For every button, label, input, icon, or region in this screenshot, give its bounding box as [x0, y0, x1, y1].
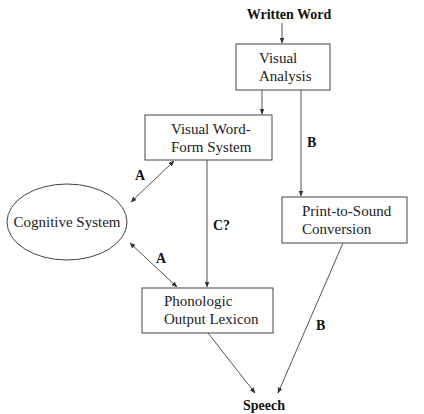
route-b-upper-label: B	[307, 135, 316, 150]
node-print-to-sound-conversion: Print-to-Sound Conversion	[282, 197, 407, 243]
node-visual-word-form-system: Visual Word- Form System	[145, 115, 272, 160]
visual-word-form-line1: Visual Word-	[171, 121, 251, 137]
print-to-sound-line1: Print-to-Sound	[302, 203, 392, 219]
route-c-label: C?	[213, 218, 230, 233]
visual-word-form-line2: Form System	[171, 139, 252, 155]
edge-print-to-sound-to-speech	[278, 243, 343, 393]
route-a-lower-label: A	[156, 251, 167, 266]
written-word-label: Written Word	[247, 7, 332, 22]
speech-label: Speech	[243, 398, 285, 413]
phonologic-line1: Phonologic	[164, 293, 233, 309]
reading-model-diagram: Written Word Visual Analysis B Visual Wo…	[0, 0, 424, 414]
phonologic-line2: Output Lexicon	[164, 311, 259, 327]
edge-cognitive-to-phonologic	[130, 243, 177, 287]
node-cognitive-system: Cognitive System	[7, 184, 127, 260]
route-b-lower-label: B	[316, 318, 325, 333]
route-a-upper-label: A	[135, 168, 146, 183]
visual-analysis-line1: Visual	[259, 50, 297, 66]
visual-analysis-line2: Analysis	[259, 68, 312, 84]
node-phonologic-output-lexicon: Phonologic Output Lexicon	[142, 288, 273, 333]
node-visual-analysis: Visual Analysis	[236, 44, 330, 90]
edge-phonologic-to-speech	[208, 333, 255, 393]
print-to-sound-line2: Conversion	[302, 221, 372, 237]
cognitive-system-label: Cognitive System	[13, 214, 120, 230]
